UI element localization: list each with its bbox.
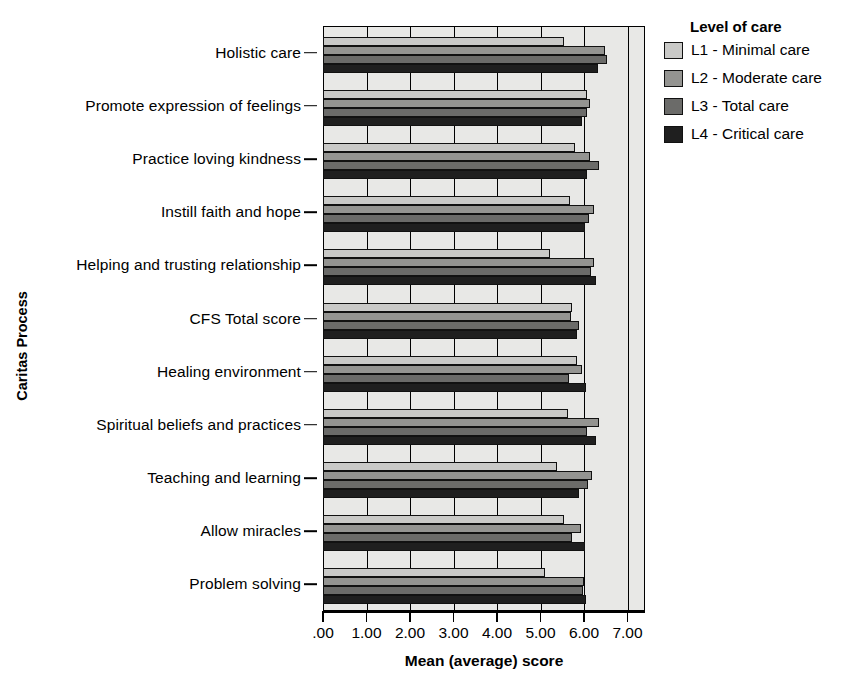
- bar: [323, 196, 570, 205]
- y-axis-tick-label: Practice loving kindness: [132, 150, 301, 168]
- y-axis-tick-label: Instill faith and hope: [161, 203, 301, 221]
- y-axis-categories: Holistic carePromote expression of feeli…: [0, 26, 323, 611]
- legend-swatch-icon: [664, 70, 683, 87]
- bar-group: [323, 90, 645, 126]
- x-axis-tick-label: 3.00: [438, 624, 468, 642]
- y-axis-tick-label: CFS Total score: [190, 310, 301, 328]
- bar: [323, 524, 581, 533]
- bar: [323, 312, 571, 321]
- bar-group: [323, 37, 645, 73]
- x-axis-tick: [366, 611, 368, 622]
- bar: [323, 586, 583, 595]
- bar: [323, 365, 582, 374]
- bar: [323, 568, 545, 577]
- y-axis-title-wrap: Caritas Process: [18, 0, 19, 692]
- bar: [323, 418, 599, 427]
- legend-item[interactable]: L4 - Critical care: [664, 125, 862, 143]
- x-axis-tick-label: .00: [312, 624, 334, 642]
- bar: [323, 356, 577, 365]
- x-axis-tick: [453, 611, 455, 622]
- bar: [323, 143, 575, 152]
- bar: [323, 258, 594, 267]
- bar: [323, 99, 590, 108]
- y-axis-title: Caritas Process: [14, 291, 30, 401]
- x-axis-tick: [583, 611, 585, 622]
- bars-layer: [323, 26, 645, 611]
- legend-item[interactable]: L2 - Moderate care: [664, 69, 862, 87]
- bar: [323, 480, 588, 489]
- y-axis-tick-label: Allow miracles: [201, 522, 301, 540]
- legend: Level of care L1 - Minimal careL2 - Mode…: [664, 18, 862, 153]
- bar-group: [323, 356, 645, 392]
- bar: [323, 37, 564, 46]
- bar: [323, 409, 568, 418]
- bar: [323, 383, 586, 392]
- bar: [323, 161, 599, 170]
- bar-group: [323, 462, 645, 498]
- legend-items: L1 - Minimal careL2 - Moderate careL3 - …: [664, 41, 862, 143]
- y-axis-tick: [304, 211, 317, 213]
- x-axis-tick: [322, 611, 324, 622]
- x-axis-tick-label: 7.00: [612, 624, 642, 642]
- legend-label: L3 - Total care: [691, 97, 789, 115]
- bar-group: [323, 515, 645, 551]
- bar-group: [323, 249, 645, 285]
- legend-title: Level of care: [690, 18, 862, 35]
- x-axis-tick-label: 2.00: [395, 624, 425, 642]
- bar: [323, 330, 577, 339]
- y-axis-tick-label: Promote expression of feelings: [85, 97, 301, 115]
- bar: [323, 303, 572, 312]
- y-axis-tick: [304, 158, 317, 160]
- x-axis-title: Mean (average) score: [323, 652, 645, 670]
- bar: [323, 214, 589, 223]
- x-axis-tick: [409, 611, 411, 622]
- y-axis-tick-label: Holistic care: [215, 44, 301, 62]
- y-axis-tick-label: Helping and trusting relationship: [76, 256, 301, 274]
- bar: [323, 515, 564, 524]
- y-axis-tick: [304, 530, 317, 532]
- bar: [323, 267, 591, 276]
- bar: [323, 542, 585, 551]
- bar-group: [323, 143, 645, 179]
- y-axis-tick: [304, 477, 317, 479]
- x-axis-tick: [496, 611, 498, 622]
- x-axis-tick-label: 1.00: [351, 624, 381, 642]
- bar: [323, 64, 598, 73]
- x-axis-tick-label: 5.00: [525, 624, 555, 642]
- y-axis-tick: [304, 371, 317, 373]
- bar-group: [323, 568, 645, 604]
- bar: [323, 276, 596, 285]
- bar: [323, 223, 585, 232]
- y-axis-tick: [304, 424, 317, 426]
- bar: [323, 55, 607, 64]
- y-axis-tick: [304, 105, 317, 107]
- bar-chart: Holistic carePromote expression of feeli…: [0, 0, 866, 692]
- y-axis-tick-label: Problem solving: [189, 575, 301, 593]
- bar: [323, 533, 572, 542]
- bar: [323, 321, 579, 330]
- bar-group: [323, 303, 645, 339]
- legend-item[interactable]: L1 - Minimal care: [664, 41, 862, 59]
- x-axis-line: [323, 611, 645, 613]
- bar: [323, 489, 579, 498]
- y-axis-tick-label: Teaching and learning: [147, 469, 301, 487]
- bar: [323, 205, 594, 214]
- legend-swatch-icon: [664, 98, 683, 115]
- x-axis-tick: [627, 611, 629, 622]
- y-axis-tick: [304, 584, 317, 586]
- bar: [323, 117, 582, 126]
- bar: [323, 152, 590, 161]
- bar: [323, 46, 605, 55]
- legend-swatch-icon: [664, 126, 683, 143]
- bar: [323, 108, 587, 117]
- y-axis-tick-label: Spiritual beliefs and practices: [96, 416, 301, 434]
- y-axis-tick-label: Healing environment: [157, 363, 301, 381]
- legend-item[interactable]: L3 - Total care: [664, 97, 862, 115]
- y-axis-tick: [304, 52, 317, 54]
- bar: [323, 249, 550, 258]
- legend-label: L2 - Moderate care: [691, 69, 822, 87]
- bar-group: [323, 196, 645, 232]
- bar: [323, 374, 569, 383]
- bar: [323, 577, 584, 586]
- bar: [323, 170, 587, 179]
